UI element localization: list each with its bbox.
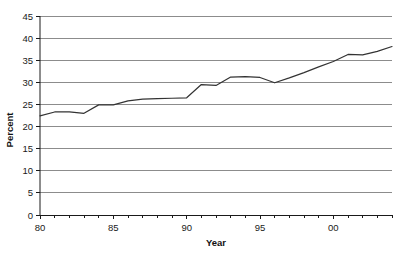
x-axis-tick-label: 00: [328, 222, 339, 233]
y-axis-tick-label: 0: [28, 210, 33, 221]
line-chart: 051015202530354045 8085909500 Percent Ye…: [0, 0, 403, 259]
x-axis-tick-label: 85: [108, 222, 119, 233]
y-axis-tick-label: 20: [22, 121, 33, 132]
y-axis-tick-label: 40: [22, 33, 33, 44]
y-axis-tick-label: 15: [22, 143, 33, 154]
x-axis-tick-label: 90: [181, 222, 192, 233]
x-axis-tick-label: 80: [35, 222, 46, 233]
chart-background: [0, 0, 403, 259]
y-axis-tick-label: 35: [22, 55, 33, 66]
y-axis-tick-label: 30: [22, 77, 33, 88]
y-axis-tick-label: 10: [22, 165, 33, 176]
y-axis-tick-label: 5: [28, 187, 33, 198]
x-axis-tick-label: 95: [255, 222, 266, 233]
y-axis-tick-label: 25: [22, 99, 33, 110]
chart-canvas: 051015202530354045 8085909500 Percent Ye…: [0, 0, 403, 259]
y-axis-tick-label: 45: [22, 11, 33, 22]
y-axis-title: Percent: [4, 112, 15, 148]
x-axis-title: Year: [206, 237, 226, 248]
